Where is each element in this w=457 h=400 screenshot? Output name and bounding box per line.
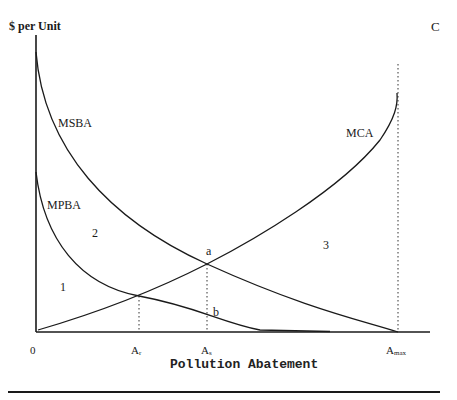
mca-label: MCA [346, 127, 373, 139]
point-a-label: a [206, 245, 211, 257]
tick-zero: 0 [30, 345, 36, 356]
tick-ar: Ar [131, 345, 141, 357]
corner-label: C [431, 20, 440, 33]
mpba-label: MPBA [47, 199, 81, 211]
x-axis-label: Pollution Abatement [170, 357, 318, 372]
area-3-label: 3 [323, 239, 329, 251]
point-b-label: b [213, 306, 219, 318]
msba-label: MSBA [58, 117, 92, 129]
bottom-rule [8, 391, 440, 393]
tick-as: As [201, 345, 212, 357]
area-1-label: 1 [60, 281, 66, 293]
area-2-label: 2 [92, 227, 98, 239]
abatement-diagram: $ per Unit C MSBA MPBA MCA 2 1 3 a b 0 A… [0, 0, 457, 400]
y-axis-label: $ per Unit [9, 20, 61, 32]
tick-amax: Amax [386, 345, 406, 357]
msba-curve [36, 52, 398, 332]
